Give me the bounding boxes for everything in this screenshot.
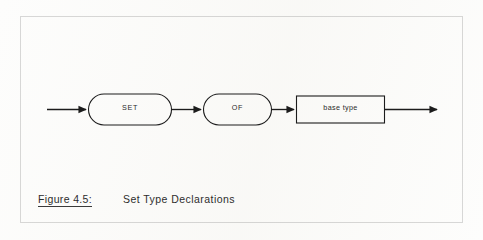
figure-caption-title: Set Type Declarations [123,193,235,205]
figure-caption: Figure 4.5: Set Type Declarations [38,193,235,207]
figure-page: SET OF base type Figure 4.5: Set Type De… [0,0,483,240]
figure-caption-number: Figure 4.5: [38,193,92,207]
node-label-of: OF [203,103,272,112]
node-label-base-type: base type [296,103,385,112]
node-label-set: SET [88,103,172,112]
